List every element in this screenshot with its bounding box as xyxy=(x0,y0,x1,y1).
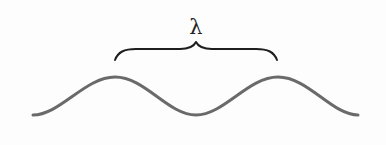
wavelength-brace xyxy=(115,42,277,60)
sine-wave xyxy=(33,77,358,115)
diagram-canvas: λ xyxy=(0,0,386,145)
wavelength-label: λ xyxy=(186,15,206,39)
